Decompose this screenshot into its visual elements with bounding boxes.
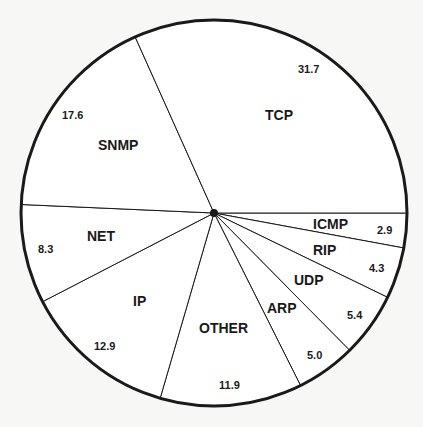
label-arp: ARP — [267, 300, 297, 316]
label-snmp: SNMP — [98, 137, 138, 153]
value-tcp: 31.7 — [298, 63, 319, 75]
value-rip: 4.3 — [369, 262, 384, 274]
label-net: NET — [87, 228, 115, 244]
value-other: 11.9 — [219, 379, 240, 391]
label-rip: RIP — [313, 242, 336, 258]
label-tcp: TCP — [265, 107, 293, 123]
label-ip: IP — [133, 293, 146, 309]
value-ip: 12.9 — [94, 340, 115, 352]
label-other: OTHER — [199, 320, 248, 336]
pie-chart: TCP 31.7 SNMP 17.6 NET 8.3 IP 12.9 OTHER… — [0, 0, 423, 427]
value-arp: 5.0 — [307, 349, 322, 361]
value-icmp: 2.9 — [377, 224, 392, 236]
pie-center-dot — [210, 209, 218, 217]
value-snmp: 17.6 — [62, 109, 83, 121]
label-icmp: ICMP — [313, 216, 348, 232]
value-net: 8.3 — [38, 243, 53, 255]
value-udp: 5.4 — [347, 309, 363, 321]
label-udp: UDP — [294, 272, 324, 288]
